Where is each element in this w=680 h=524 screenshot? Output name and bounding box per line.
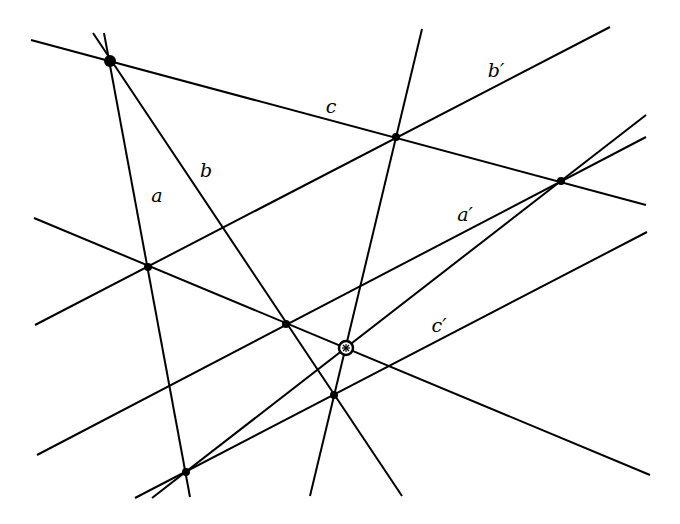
geometry-diagram: abcb′a′c′ <box>0 0 680 524</box>
label-a: a <box>151 186 162 205</box>
label-a-prime: a′ <box>457 205 473 224</box>
point-lower <box>330 391 338 399</box>
point-bottom <box>182 468 190 476</box>
circled-center-point <box>339 341 353 355</box>
label-b: b <box>200 161 212 180</box>
point-left <box>144 263 152 271</box>
label-c: c <box>326 97 337 116</box>
apex-point <box>104 55 116 67</box>
point-c-steep <box>392 133 400 141</box>
line-b <box>93 33 402 496</box>
label-c-prime: c′ <box>432 316 447 335</box>
point-middle <box>282 320 290 328</box>
label-b-prime: b′ <box>488 61 504 80</box>
point-right <box>557 177 565 185</box>
line-through-center <box>152 115 646 498</box>
line-c <box>31 40 646 205</box>
line-c-prime <box>135 232 647 498</box>
diagram-svg <box>0 0 680 524</box>
line-b-prime <box>35 27 610 325</box>
